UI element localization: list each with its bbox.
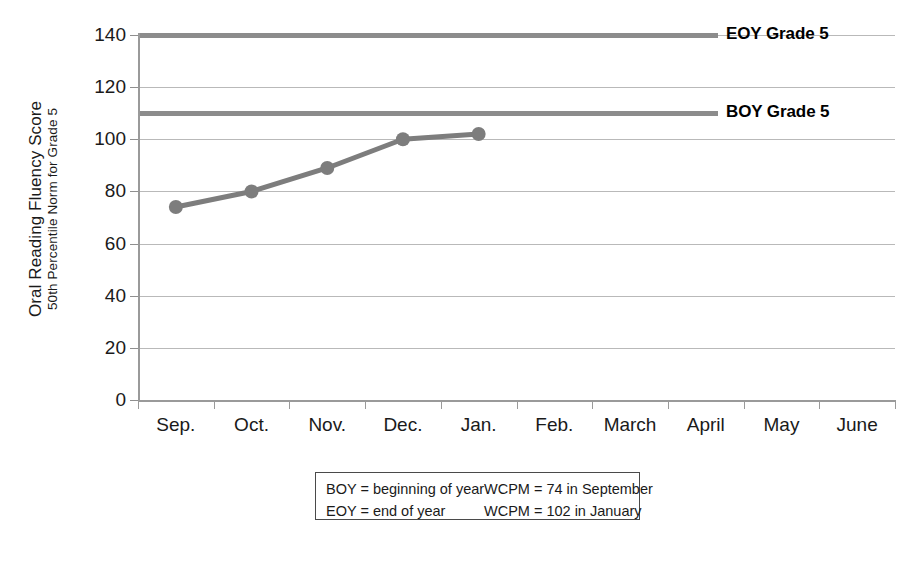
x-tick-mark-9: [819, 400, 820, 409]
x-tick-mark-1: [214, 400, 215, 409]
gridline-40: [138, 296, 895, 297]
x-tick-mark-0: [138, 400, 139, 409]
y-tick-mark-40: [130, 296, 138, 297]
y-axis-title-sub: 50th Percentile Norm for Grade 5: [45, 108, 60, 310]
y-tick-mark-80: [130, 191, 138, 192]
x-tick-label-june: June: [819, 415, 895, 436]
gridline-100: [138, 139, 895, 140]
x-tick-mark-8: [744, 400, 745, 409]
gridline-20: [138, 348, 895, 349]
legend-box: BOY = beginning of year WCPM = 74 in Sep…: [315, 472, 640, 520]
gridline-60: [138, 244, 895, 245]
y-tick-mark-100: [130, 139, 138, 140]
y-tick-label-80: 80: [80, 181, 126, 200]
x-tick-label-may: May: [744, 415, 820, 436]
x-tick-mark-10: [895, 400, 896, 409]
plot-area: [138, 35, 895, 400]
x-tick-mark-7: [668, 400, 669, 409]
orf-progress-monitoring-chart: Oral Reading Fluency Score 50th Percenti…: [0, 0, 920, 572]
x-tick-mark-3: [365, 400, 366, 409]
y-tick-label-20: 20: [80, 338, 126, 357]
y-axis-title: Oral Reading Fluency Score 50th Percenti…: [6, 14, 80, 404]
legend-cell-eoy-definition: EOY = end of year: [326, 501, 484, 522]
x-tick-mark-6: [592, 400, 593, 409]
y-axis-line: [138, 33, 140, 402]
x-tick-label-april: April: [668, 415, 744, 436]
y-tick-mark-0: [130, 400, 138, 401]
legend-grid: BOY = beginning of year WCPM = 74 in Sep…: [326, 479, 653, 521]
x-tick-mark-4: [441, 400, 442, 409]
y-tick-label-40: 40: [80, 286, 126, 305]
x-tick-label-march: March: [592, 415, 668, 436]
y-tick-label-100: 100: [80, 129, 126, 148]
y-tick-label-0: 0: [80, 390, 126, 409]
gridline-120: [138, 87, 895, 88]
legend-cell-wcpm-january: WCPM = 102 in January: [484, 501, 653, 522]
y-tick-mark-140: [130, 35, 138, 36]
x-tick-label-nov: Nov.: [289, 415, 365, 436]
y-tick-mark-120: [130, 87, 138, 88]
reference-label-boy: BOY Grade 5: [726, 102, 829, 122]
x-tick-label-feb: Feb.: [517, 415, 593, 436]
y-tick-mark-20: [130, 348, 138, 349]
y-tick-label-120: 120: [80, 77, 126, 96]
x-tick-label-oct: Oct.: [214, 415, 290, 436]
y-axis-title-main: Oral Reading Fluency Score: [26, 101, 45, 317]
x-tick-label-sep: Sep.: [138, 415, 214, 436]
y-tick-label-140: 140: [80, 25, 126, 44]
x-tick-mark-5: [517, 400, 518, 409]
x-tick-mark-2: [289, 400, 290, 409]
x-tick-label-dec: Dec.: [365, 415, 441, 436]
reference-line-boy: [140, 111, 718, 116]
reference-label-eoy: EOY Grade 5: [726, 24, 829, 44]
legend-cell-wcpm-september: WCPM = 74 in September: [484, 479, 653, 500]
x-tick-label-jan: Jan.: [441, 415, 517, 436]
gridline-80: [138, 191, 895, 192]
y-tick-label-60: 60: [80, 234, 126, 253]
y-tick-mark-60: [130, 244, 138, 245]
legend-cell-boy-definition: BOY = beginning of year: [326, 479, 484, 500]
reference-line-eoy: [140, 33, 718, 38]
